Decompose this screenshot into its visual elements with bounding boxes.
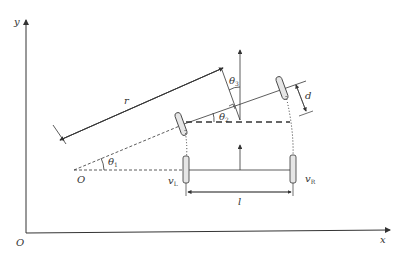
x-axis [26, 230, 390, 233]
x-axis-label: x [380, 234, 386, 245]
rotated-robot: θ2 θ3 d [174, 50, 313, 136]
y-axis-label: y [13, 16, 20, 27]
diagram-canvas: y O x O θ1 r θ2 θ3 d [0, 0, 401, 256]
wheelbase-dimension: l [186, 183, 293, 207]
rotation-center-label: O [77, 174, 85, 185]
initial-robot: vL vR [168, 145, 316, 187]
theta3-label: θ3 [229, 75, 239, 87]
left-wheel [183, 156, 189, 183]
wheel-base-label: l [238, 196, 241, 207]
radius-label: r [124, 95, 130, 106]
right-wheel-path [286, 96, 293, 156]
theta2-arc [213, 113, 214, 122]
theta3-arc [229, 87, 240, 90]
rotated-left-wheel [174, 112, 188, 137]
right-velocity-label: vR [305, 173, 316, 185]
kinematics-diagram: y O x O θ1 r θ2 θ3 d [0, 0, 401, 256]
theta1-arc [101, 158, 104, 170]
theta1-label: θ1 [108, 156, 118, 168]
world-origin-label: O [16, 237, 24, 248]
theta2-label: θ2 [219, 111, 229, 123]
wheel-offset-label: d [305, 90, 311, 101]
rotated-dashed [74, 125, 182, 170]
right-wheel [290, 155, 296, 183]
left-velocity-label: vL [168, 175, 178, 187]
world-axes: y O x [13, 16, 390, 248]
radius-dimension: r [53, 68, 223, 144]
radius-extension [53, 125, 66, 144]
